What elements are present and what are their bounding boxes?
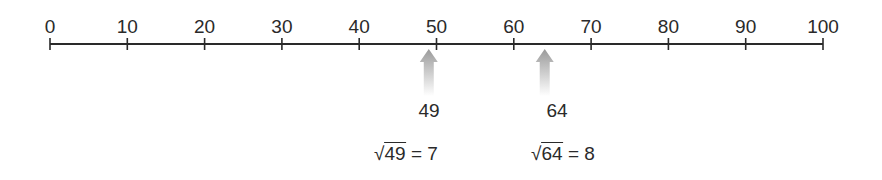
tick-label-60: 60 <box>503 16 524 38</box>
sqrt-equation-49: √49 = 7 <box>374 143 438 165</box>
arrow-up-icon <box>420 49 438 96</box>
tick-label-90: 90 <box>735 16 756 38</box>
equation-result: = 8 <box>563 143 595 164</box>
sqrt-symbol: √ <box>531 143 541 164</box>
number-line-diagram: 0102030405060708090100 49 64 √49 = 7 √64… <box>0 0 882 180</box>
marker-value-49: 49 <box>418 100 439 122</box>
tick-label-70: 70 <box>581 16 602 38</box>
equation-result: = 7 <box>406 143 438 164</box>
tick-label-50: 50 <box>426 16 447 38</box>
tick-label-10: 10 <box>117 16 138 38</box>
arrow-up-icon <box>536 49 554 96</box>
tick-label-0: 0 <box>45 16 56 38</box>
sqrt-equation-64: √64 = 8 <box>531 143 595 165</box>
sqrt-symbol: √ <box>374 143 384 164</box>
marker-value-64: 64 <box>546 100 567 122</box>
radicand: 64 <box>542 142 563 164</box>
tick-label-100: 100 <box>807 16 839 38</box>
marker-arrows <box>420 49 554 96</box>
tick-label-30: 30 <box>271 16 292 38</box>
tick-label-40: 40 <box>349 16 370 38</box>
tick-label-80: 80 <box>658 16 679 38</box>
tick-label-20: 20 <box>194 16 215 38</box>
radicand: 49 <box>385 142 406 164</box>
